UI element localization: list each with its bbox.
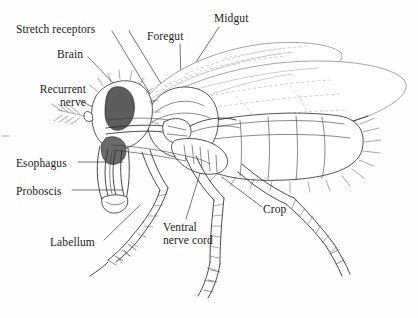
label-crop: Crop <box>263 203 286 216</box>
hindleg <box>238 164 350 276</box>
label-brain: Brain <box>57 48 83 61</box>
label-recurrent-nerve: Recurrent nerve <box>14 83 86 108</box>
labellum-organ <box>102 195 128 213</box>
label-midgut: Midgut <box>214 12 248 25</box>
label-foregut: Foregut <box>147 30 183 43</box>
label-labellum: Labellum <box>50 236 95 249</box>
label-proboscis: Proboscis <box>16 185 62 198</box>
label-stretch-receptors: Stretch receptors <box>16 23 95 36</box>
figure-canvas: .ln { fill:none; stroke:#2a2a2a; stroke-… <box>0 0 418 318</box>
label-ventral-nerve-cord: Ventral nerve cord <box>163 221 213 247</box>
label-esophagus: Esophagus <box>16 157 67 170</box>
